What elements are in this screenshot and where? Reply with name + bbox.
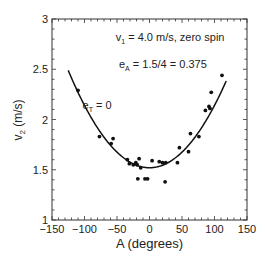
y-axis-ticks: 11.522.53 [33,13,247,226]
x-axis-label: A (degrees) [116,236,183,251]
x-axis-ticks: −150−100−50050100150 [40,19,257,235]
y-axis-label: v2 (m/s) [11,99,27,140]
data-point [197,135,201,139]
fit-curve [68,70,226,167]
annotation-eA: eA = 1.5/4 = 0.375 [119,58,207,72]
data-point [98,135,102,139]
data-point [137,157,141,161]
chart: −150−100−50050100150 11.522.53 v1 = 4.0 … [0,0,265,262]
data-point [146,177,150,181]
data-point [135,163,139,167]
data-point [187,150,191,154]
x-tick-label: 150 [238,223,256,235]
data-point [150,159,154,163]
y-tick-label: 1 [42,214,48,226]
y-tick-label: 1.5 [33,164,48,176]
data-point [161,161,165,165]
x-tick-label: 50 [176,223,188,235]
annotations: v1 = 4.0 m/s, zero spineA = 1.5/4 = 0.37… [83,31,225,113]
data-point [139,166,143,170]
x-tick-label: −100 [72,223,97,235]
data-point [176,161,180,165]
data-point [126,158,130,162]
data-point [157,160,161,164]
y-tick-label: 2 [42,114,48,126]
y-tick-label: 2.5 [33,63,48,75]
data-point [178,146,182,150]
y-tick-label: 3 [42,13,48,25]
plot-frame [52,19,247,220]
fit-line [68,70,226,167]
data-point [164,161,168,165]
data-point [163,180,167,184]
data-point [208,107,212,111]
data-point [189,132,193,136]
plot-border [52,19,247,220]
data-point [209,90,213,94]
data-point [204,109,208,113]
x-tick-label: 0 [146,223,152,235]
x-tick-label: −50 [108,223,127,235]
annotation-v1: v1 = 4.0 m/s, zero spin [116,31,225,45]
data-point [220,73,224,77]
data-point [111,137,115,141]
y-axis-label-unit: (m/s) [11,99,25,130]
data-point [109,142,113,146]
annotation-eT: eT = 0 [83,99,112,113]
x-tick-label: 100 [205,223,223,235]
data-point [127,162,131,166]
data-point [136,177,140,181]
data-point [76,88,80,92]
